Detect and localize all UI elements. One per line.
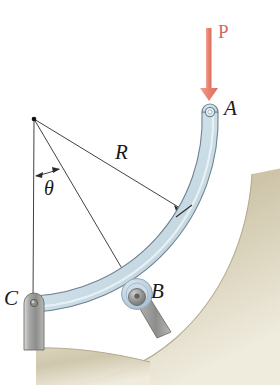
label-angle-theta: θ (44, 178, 54, 198)
figure-canvas (0, 0, 280, 385)
mechanics-figure: A B C R θ P (0, 0, 280, 385)
load-arrow-p (200, 28, 218, 101)
ground-surface (36, 168, 280, 385)
label-point-c: C (4, 288, 18, 309)
arc-center-dot (32, 117, 37, 122)
label-radius-r: R (115, 142, 128, 163)
label-point-b: B (151, 281, 164, 302)
construction-lines (33, 119, 180, 303)
pin-hole-a (205, 107, 214, 116)
vertical-reference-line (33, 119, 34, 303)
curved-bar (26, 104, 218, 312)
label-point-a: A (224, 98, 237, 119)
pin-support-c (24, 293, 44, 350)
radius-line-r (34, 119, 180, 208)
label-load-p: P (218, 22, 229, 41)
